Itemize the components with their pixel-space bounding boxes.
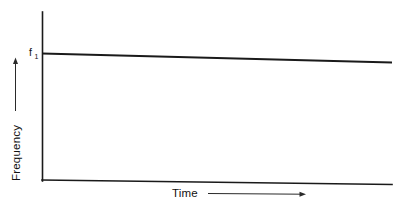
series-label-symbol: f bbox=[29, 46, 32, 58]
x-axis-title: Time bbox=[172, 187, 198, 199]
x-axis-line bbox=[42, 180, 392, 185]
frequency-data-line bbox=[42, 54, 392, 63]
frequency-time-figure: Frequency Time f 1 bbox=[0, 0, 404, 207]
x-axis-arrow-head-icon bbox=[300, 192, 307, 197]
y-axis-title: Frequency bbox=[10, 125, 22, 181]
plot-canvas: Frequency Time f 1 bbox=[0, 0, 404, 207]
series-label-subscript: 1 bbox=[35, 53, 39, 60]
y-axis-arrow-head-icon bbox=[13, 58, 18, 65]
x-axis-arrow-shaft bbox=[208, 194, 301, 195]
